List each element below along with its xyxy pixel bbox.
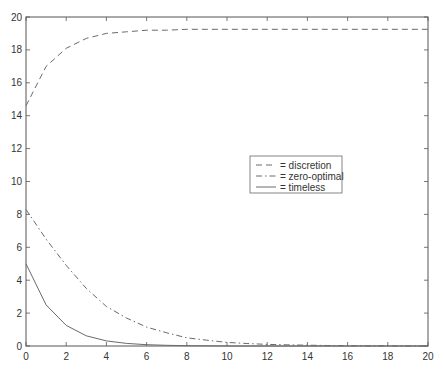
y-tick-label: 6 <box>16 242 22 253</box>
y-tick-label: 18 <box>11 44 23 55</box>
x-tick-label: 4 <box>104 351 110 362</box>
legend-label-timeless: = timeless <box>280 182 325 193</box>
plot-area <box>26 17 428 346</box>
y-tick-label: 10 <box>11 176 23 187</box>
y-tick-label: 14 <box>11 110 23 121</box>
y-tick-label: 16 <box>11 77 23 88</box>
x-tick-label: 0 <box>23 351 29 362</box>
x-tick-label: 12 <box>262 351 274 362</box>
y-tick-label: 4 <box>16 275 22 286</box>
x-tick-label: 20 <box>422 351 434 362</box>
x-tick-label: 6 <box>144 351 150 362</box>
legend-label-discretion: = discretion <box>280 160 331 171</box>
y-tick-label: 0 <box>16 341 22 352</box>
x-tick-label: 14 <box>302 351 314 362</box>
x-tick-label: 16 <box>342 351 354 362</box>
y-tick-label: 20 <box>11 12 23 23</box>
line-chart: 02468101214161820 02468101214161820 = di… <box>0 0 444 372</box>
x-tick-label: 8 <box>184 351 190 362</box>
x-tick-label: 10 <box>221 351 233 362</box>
x-tick-label: 2 <box>63 351 69 362</box>
y-tick-label: 2 <box>16 308 22 319</box>
y-tick-label: 8 <box>16 209 22 220</box>
legend: = discretion= zero-optimal= timeless <box>250 156 344 193</box>
y-tick-label: 12 <box>11 143 23 154</box>
x-tick-label: 18 <box>382 351 394 362</box>
legend-label-zero-optimal: = zero-optimal <box>280 171 344 182</box>
